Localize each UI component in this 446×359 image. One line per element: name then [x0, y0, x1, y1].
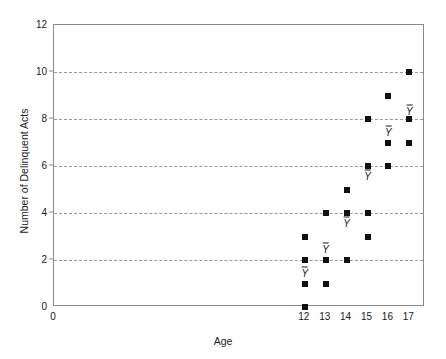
data-point — [365, 234, 371, 240]
mean-symbol: Y — [343, 219, 350, 228]
x-tick-label: 17 — [388, 311, 428, 322]
mean-symbol: Y — [364, 172, 371, 181]
group-mean-label: Y — [406, 104, 413, 115]
mean-symbol: Y — [385, 127, 392, 136]
x-tick-label: 0 — [33, 311, 73, 322]
y-tick-mark — [49, 165, 53, 166]
y-tick-label: 0 — [17, 301, 47, 312]
data-point — [385, 163, 391, 169]
data-point — [302, 304, 308, 310]
mean-symbol: Y — [322, 245, 329, 254]
data-point — [406, 140, 412, 146]
group-mean-label: Y — [385, 125, 392, 136]
data-point — [344, 187, 350, 193]
y-tick-mark — [49, 71, 53, 72]
data-point — [365, 210, 371, 216]
data-point — [344, 210, 350, 216]
data-point — [344, 257, 350, 263]
data-point — [406, 69, 412, 75]
data-point — [302, 281, 308, 287]
data-point — [365, 163, 371, 169]
y-tick-mark — [49, 212, 53, 213]
data-point — [323, 257, 329, 263]
group-mean-label: Y — [322, 243, 329, 254]
data-point — [323, 210, 329, 216]
group-mean-label: Y — [364, 170, 371, 181]
group-mean-label: Y — [343, 217, 350, 228]
gridline — [54, 260, 423, 261]
data-point — [406, 116, 412, 122]
data-point — [302, 234, 308, 240]
group-mean-label: Y — [301, 266, 308, 277]
data-point — [323, 281, 329, 287]
scatter-plot-figure: YYYYYY 024681012 0121314151617 Number of… — [0, 0, 446, 359]
mean-symbol: Y — [301, 268, 308, 277]
data-point — [385, 93, 391, 99]
data-point — [385, 140, 391, 146]
plot-area: YYYYYY — [53, 24, 424, 306]
y-axis-title: Number of Delinquent Acts — [18, 71, 30, 271]
x-axis-title: Age — [0, 335, 446, 347]
data-point — [302, 257, 308, 263]
gridline — [54, 72, 423, 73]
mean-symbol: Y — [406, 106, 413, 115]
y-tick-mark — [49, 259, 53, 260]
y-tick-label: 12 — [17, 19, 47, 30]
y-tick-mark — [49, 118, 53, 119]
data-point — [365, 116, 371, 122]
